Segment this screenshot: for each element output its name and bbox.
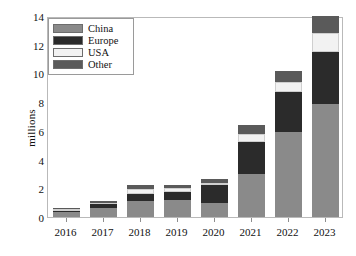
bar-segment-china[interactable] bbox=[164, 200, 191, 217]
bar-segment-other[interactable] bbox=[312, 16, 339, 33]
legend-swatch-usa bbox=[53, 48, 83, 57]
bar-segment-china[interactable] bbox=[127, 201, 154, 217]
legend-swatch-other bbox=[53, 60, 83, 69]
x-tick-mark bbox=[251, 218, 252, 222]
bar-segment-other[interactable] bbox=[127, 185, 154, 189]
bar-segment-usa[interactable] bbox=[275, 82, 302, 92]
y-tick-label: 0 bbox=[4, 212, 44, 224]
y-tick-label: 12 bbox=[4, 40, 44, 52]
bar-segment-europe[interactable] bbox=[90, 204, 117, 208]
x-tick-mark bbox=[325, 218, 326, 222]
y-tick-label: 4 bbox=[4, 155, 44, 167]
bar-segment-europe[interactable] bbox=[53, 211, 80, 212]
bar-segment-europe[interactable] bbox=[127, 194, 154, 201]
bar-segment-china[interactable] bbox=[275, 132, 302, 217]
bar-segment-china[interactable] bbox=[90, 208, 117, 217]
legend-item-other[interactable]: Other bbox=[53, 59, 129, 70]
bar-segment-china[interactable] bbox=[238, 174, 265, 217]
bar-stack[interactable] bbox=[127, 185, 154, 217]
bar-stack[interactable] bbox=[275, 71, 302, 217]
bar-segment-china[interactable] bbox=[53, 212, 80, 217]
x-tick-mark bbox=[66, 218, 67, 222]
bar-segment-other[interactable] bbox=[53, 208, 80, 209]
bar-segment-europe[interactable] bbox=[312, 52, 339, 104]
bar-segment-europe[interactable] bbox=[275, 92, 302, 132]
x-tick-mark bbox=[103, 218, 104, 222]
chart-figure: millions 02468101214 2016201720182019202… bbox=[0, 0, 356, 256]
legend-item-europe[interactable]: Europe bbox=[53, 35, 129, 46]
bar-stack[interactable] bbox=[201, 179, 228, 217]
legend-swatch-europe bbox=[53, 36, 83, 45]
bar-segment-usa[interactable] bbox=[201, 183, 228, 186]
bar-segment-other[interactable] bbox=[164, 185, 191, 188]
x-tick-mark bbox=[177, 218, 178, 222]
bar-stack[interactable] bbox=[53, 208, 80, 217]
legend-label: China bbox=[88, 23, 113, 34]
x-tick-mark bbox=[288, 218, 289, 222]
y-tick-label: 8 bbox=[4, 97, 44, 109]
x-tick-mark bbox=[214, 218, 215, 222]
y-tick-label: 6 bbox=[4, 126, 44, 138]
y-tick-label: 10 bbox=[4, 68, 44, 80]
bar-segment-other[interactable] bbox=[238, 125, 265, 134]
y-tick-label: 14 bbox=[4, 11, 44, 23]
x-tick-mark bbox=[140, 218, 141, 222]
bar-segment-china[interactable] bbox=[312, 104, 339, 217]
legend-item-china[interactable]: China bbox=[53, 23, 129, 34]
bar-segment-europe[interactable] bbox=[201, 185, 228, 202]
bar-stack[interactable] bbox=[164, 185, 191, 217]
bar-stack[interactable] bbox=[312, 16, 339, 217]
legend-label: Europe bbox=[88, 35, 118, 46]
y-tick-label: 2 bbox=[4, 183, 44, 195]
bar-segment-other[interactable] bbox=[201, 179, 228, 183]
bar-segment-europe[interactable] bbox=[164, 192, 191, 200]
legend-label: USA bbox=[88, 47, 109, 58]
bar-segment-china[interactable] bbox=[201, 203, 228, 217]
bar-segment-europe[interactable] bbox=[238, 142, 265, 174]
legend-label: Other bbox=[88, 59, 112, 70]
bar-segment-other[interactable] bbox=[90, 201, 117, 202]
bar-segment-other[interactable] bbox=[275, 71, 302, 82]
chart-legend: ChinaEuropeUSAOther bbox=[48, 18, 134, 75]
legend-swatch-china bbox=[53, 24, 83, 33]
legend-item-usa[interactable]: USA bbox=[53, 47, 129, 58]
bar-stack[interactable] bbox=[90, 201, 117, 217]
bar-segment-usa[interactable] bbox=[312, 33, 339, 52]
bar-segment-usa[interactable] bbox=[238, 134, 265, 143]
x-tick-label: 2023 bbox=[301, 226, 349, 238]
bar-segment-usa[interactable] bbox=[164, 188, 191, 192]
bar-segment-usa[interactable] bbox=[127, 189, 154, 194]
bar-stack[interactable] bbox=[238, 125, 265, 217]
